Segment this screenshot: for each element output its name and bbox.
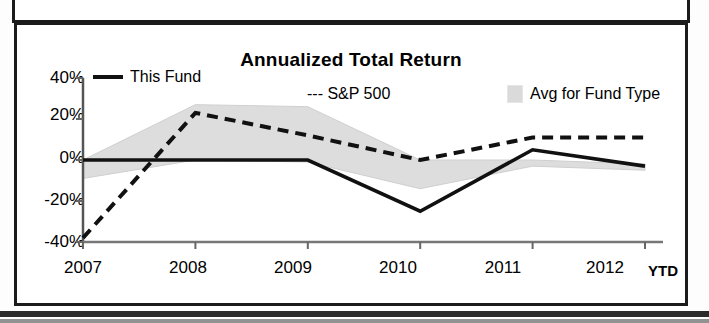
legend-label-this-fund: This Fund [130, 68, 201, 86]
x-tick-label-2012: 2012 [565, 258, 645, 278]
legend-item-this-fund: This Fund [93, 68, 201, 86]
solid-line-icon [93, 75, 123, 79]
x-tick-label-2009: 2009 [253, 258, 333, 278]
bottom-rule [0, 311, 709, 317]
legend-label-sp500: --- S&P 500 [307, 85, 390, 103]
legend-item-sp500: --- S&P 500 [307, 85, 390, 103]
legend-label-avg-fund-type: Avg for Fund Type [530, 85, 660, 103]
x-tick-label-2010: 2010 [358, 258, 438, 278]
x-tick-label-2007: 2007 [43, 258, 123, 278]
fund-performance-chart-panel: Annualized Total Return This Fund --- S&… [0, 0, 709, 323]
bottom-rule-secondary [0, 319, 709, 323]
y-tick-label-neg20: -20% [24, 190, 84, 210]
chart-legend: This Fund --- S&P 500 Avg for Fund Type [17, 65, 685, 101]
y-tick-label-40: 40% [24, 68, 84, 88]
y-tick-label-0: 0% [24, 148, 84, 168]
x-axis-ytd-label: YTD [648, 262, 678, 279]
legend-item-avg-fund-type: Avg for Fund Type [507, 85, 660, 103]
x-tick-label-2008: 2008 [148, 258, 228, 278]
x-tick-label-2011: 2011 [463, 258, 543, 278]
y-tick-label-neg40: -40% [24, 232, 84, 252]
band-swatch-icon [507, 85, 523, 103]
panel-above-divider [12, 0, 690, 23]
y-tick-label-20: 20% [24, 105, 84, 125]
